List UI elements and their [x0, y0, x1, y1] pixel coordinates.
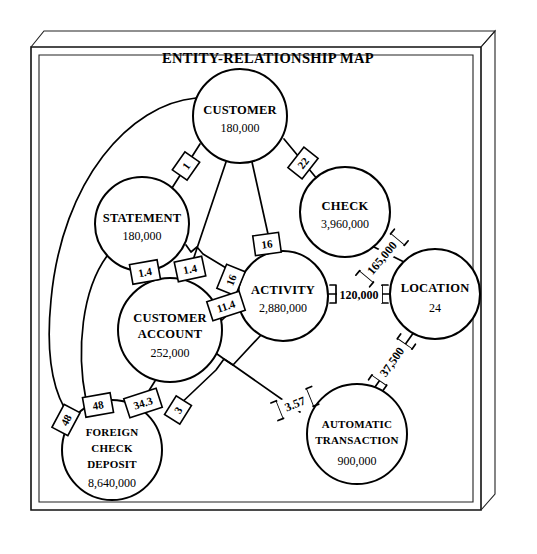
- edge-label-customer-statement: 1: [172, 152, 199, 180]
- entity-relationship-diagram: ENTITY-RELATIONSHIP MAP: [0, 0, 537, 554]
- node-customer[interactable]: CUSTOMER 180,000: [193, 69, 287, 163]
- node-activity-count: 2,880,000: [259, 301, 307, 315]
- node-customer-label: CUSTOMER: [203, 103, 277, 117]
- edge-label-activity-foreign-check: 3: [165, 396, 192, 424]
- node-foreign-check-deposit-label-line3: DEPOSIT: [87, 458, 137, 470]
- node-layer: CUSTOMER 180,000 STATEMENT 180,000 CHECK…: [62, 69, 480, 500]
- node-automatic-transaction-label-line1: AUTOMATIC: [322, 418, 392, 430]
- edge-label-statement-foreign-check: 48: [82, 393, 113, 418]
- node-statement[interactable]: STATEMENT 180,000: [95, 177, 189, 271]
- node-location[interactable]: LOCATION 24: [390, 249, 480, 339]
- edge-label-statement-customer-account: 1.4: [129, 260, 160, 285]
- node-customer-account-label-line2: ACCOUNT: [138, 327, 203, 341]
- node-statement-label: STATEMENT: [103, 211, 182, 225]
- node-activity[interactable]: ACTIVITY 2,880,000: [238, 251, 328, 341]
- edge-label-customer-activity: 16: [253, 232, 282, 255]
- node-check-count: 3,960,000: [321, 217, 369, 231]
- edge-label-activity-location-text: 120,000: [340, 288, 379, 302]
- edge-label-statement-customer-account-text: 1.4: [137, 265, 153, 279]
- node-check-label: CHECK: [322, 199, 369, 213]
- node-customer-account-label-line1: CUSTOMER: [133, 311, 207, 325]
- edge-label-customer-account-activity: 11.4: [207, 291, 246, 321]
- edge-label-customer-account-foreign-check: 34.3: [124, 388, 163, 418]
- node-foreign-check-deposit-label-line1: FOREIGN: [86, 426, 139, 438]
- node-foreign-check-deposit-count: 8,640,000: [88, 476, 136, 490]
- diagram-title: ENTITY-RELATIONSHIP MAP: [162, 50, 374, 66]
- node-statement-count: 180,000: [123, 229, 162, 243]
- node-customer-count: 180,000: [221, 121, 260, 135]
- node-automatic-transaction[interactable]: AUTOMATIC TRANSACTION 900,000: [307, 384, 407, 484]
- diagram-canvas: ENTITY-RELATIONSHIP MAP: [0, 0, 537, 554]
- node-automatic-transaction-label-line2: TRANSACTION: [315, 434, 399, 446]
- node-customer-account[interactable]: CUSTOMER ACCOUNT 252,000: [118, 278, 222, 382]
- node-location-label: LOCATION: [401, 281, 470, 295]
- node-check[interactable]: CHECK 3,960,000: [300, 167, 390, 257]
- edge-label-location-auto-transaction: 37,500: [369, 334, 416, 390]
- edge-label-customer-activity-text: 16: [261, 237, 274, 250]
- node-location-count: 24: [429, 301, 441, 315]
- node-automatic-transaction-count: 900,000: [338, 454, 377, 468]
- node-foreign-check-deposit-label-line2: CHECK: [91, 442, 133, 454]
- edge-label-customer-customer-account: 1.4: [174, 256, 206, 281]
- node-activity-label: ACTIVITY: [251, 283, 315, 297]
- node-customer-account-count: 252,000: [151, 346, 190, 360]
- edge-label-activity-location: 120,000: [330, 285, 388, 303]
